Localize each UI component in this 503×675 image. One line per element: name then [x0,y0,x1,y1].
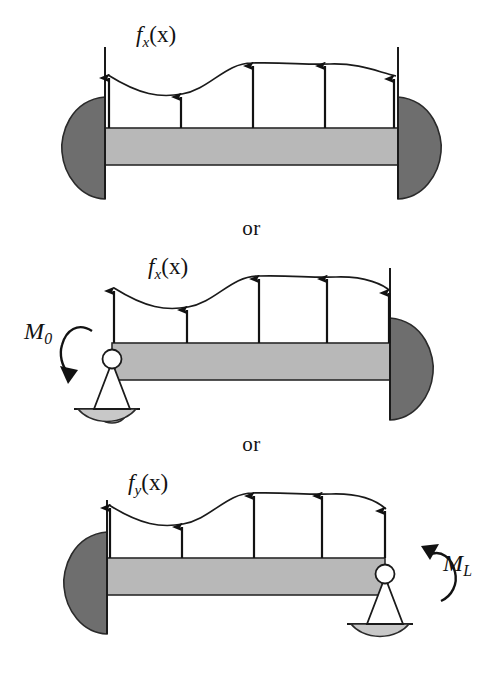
fixed-support-left-icon [62,97,105,199]
moment-label-m: M [443,550,463,576]
load-label-argument: (x) [141,470,168,495]
beam-body [107,558,385,595]
beam-body [112,343,390,380]
beam-figure: fx(x) fx(x) fy(x) M0 ML or or [0,0,503,675]
separator-or-1: or [0,216,503,241]
beam-body [105,128,398,165]
moment-label-ml: ML [443,550,472,580]
beam-diagram-svg [0,0,503,675]
load-label-argument: (x) [149,22,176,47]
panel-2-group [60,268,433,423]
load-label-argument: (x) [161,254,188,279]
fixed-support-right-icon [398,97,441,199]
load-label-panel-3: fy(x) [128,470,168,499]
load-label-panel-1: fx(x) [136,22,176,51]
fixed-support-left-icon [64,532,107,634]
panel-1-group [62,47,441,199]
moment-label-subscript: L [463,562,472,579]
load-label-panel-2: fx(x) [148,254,188,283]
moment-label-m: M [24,318,44,344]
moment-label-m0: M0 [24,318,52,348]
panel-3-group [64,493,456,637]
moment-label-subscript: 0 [44,330,52,347]
fixed-support-right-icon [390,318,433,420]
separator-or-2: or [0,432,503,457]
moment-arrow-clockwise-icon [60,327,92,384]
